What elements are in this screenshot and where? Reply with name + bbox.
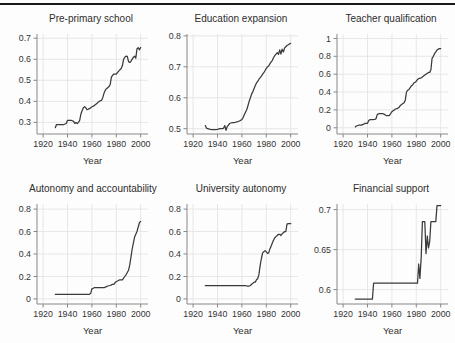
svg-text:0.5: 0.5 <box>19 75 31 85</box>
chart-title-teacher-qualification: Teacher qualification <box>303 8 453 28</box>
svg-text:0.3: 0.3 <box>19 117 31 127</box>
panel-university-autonomy: University autonomy 19201940196019802000… <box>153 178 303 338</box>
chart-title-financial-support: Financial support <box>303 178 453 198</box>
financial-support-line-chart: 192019401960198020000.60.650.7Year <box>303 198 453 338</box>
chart-title-pre-primary-school: Pre-primary school <box>3 8 153 28</box>
chart-title-education-expansion: Education expansion <box>153 8 303 28</box>
svg-text:1940: 1940 <box>358 139 378 149</box>
svg-text:1980: 1980 <box>107 309 127 319</box>
chart-title-autonomy-and-accountability: Autonomy and accountability <box>3 178 153 198</box>
svg-text:0.5: 0.5 <box>169 124 181 134</box>
svg-text:0.6: 0.6 <box>319 285 331 295</box>
svg-text:0.8: 0.8 <box>19 204 31 214</box>
svg-text:Year: Year <box>233 325 252 336</box>
svg-text:2000: 2000 <box>281 139 301 149</box>
svg-text:1960: 1960 <box>382 309 402 319</box>
svg-text:0.2: 0.2 <box>19 272 31 282</box>
svg-text:Year: Year <box>383 325 402 336</box>
svg-text:0.65: 0.65 <box>314 245 331 255</box>
education-expansion-line-chart: 192019401960198020000.50.60.70.8Year <box>153 28 303 168</box>
svg-text:0.8: 0.8 <box>319 51 331 61</box>
svg-text:1940: 1940 <box>58 139 78 149</box>
svg-text:1960: 1960 <box>382 139 402 149</box>
svg-text:0.6: 0.6 <box>319 69 331 79</box>
charts-grid: Pre-primary school 192019401960198020000… <box>3 8 453 338</box>
university-autonomy-line-chart: 1920194019601980200000.20.40.60.8Year <box>153 198 303 338</box>
svg-text:1960: 1960 <box>82 309 102 319</box>
svg-text:1: 1 <box>326 34 331 44</box>
chart-title-university-autonomy: University autonomy <box>153 178 303 198</box>
svg-text:1920: 1920 <box>33 139 53 149</box>
svg-text:2000: 2000 <box>431 139 451 149</box>
svg-text:0.7: 0.7 <box>19 33 31 43</box>
svg-text:1980: 1980 <box>257 309 277 319</box>
svg-text:0.8: 0.8 <box>169 31 181 41</box>
svg-text:0: 0 <box>176 294 181 304</box>
panel-pre-primary-school: Pre-primary school 192019401960198020000… <box>3 8 153 168</box>
svg-text:0.2: 0.2 <box>319 105 331 115</box>
svg-text:1920: 1920 <box>183 139 203 149</box>
svg-text:0.6: 0.6 <box>169 227 181 237</box>
svg-text:1920: 1920 <box>333 139 353 149</box>
panel-teacher-qualification: Teacher qualification 192019401960198020… <box>303 8 453 168</box>
svg-text:Year: Year <box>383 155 402 166</box>
figure-page: Pre-primary school 192019401960198020000… <box>0 0 455 343</box>
svg-text:2000: 2000 <box>431 309 451 319</box>
svg-text:Year: Year <box>83 325 102 336</box>
svg-text:0: 0 <box>326 123 331 133</box>
svg-text:1940: 1940 <box>58 309 78 319</box>
svg-text:0: 0 <box>26 294 31 304</box>
svg-text:1980: 1980 <box>257 139 277 149</box>
svg-text:1980: 1980 <box>407 139 427 149</box>
svg-text:2000: 2000 <box>131 139 151 149</box>
svg-text:0.4: 0.4 <box>19 96 31 106</box>
top-horizontal-rule <box>0 3 455 5</box>
autonomy-and-accountability-line-chart: 1920194019601980200000.20.40.60.8Year <box>3 198 153 338</box>
svg-text:2000: 2000 <box>131 309 151 319</box>
svg-text:0.4: 0.4 <box>169 249 181 259</box>
svg-text:1940: 1940 <box>358 309 378 319</box>
svg-text:1920: 1920 <box>183 309 203 319</box>
svg-text:0.4: 0.4 <box>319 87 331 97</box>
svg-text:Year: Year <box>233 155 252 166</box>
svg-text:0.7: 0.7 <box>169 62 181 72</box>
panel-autonomy-and-accountability: Autonomy and accountability 192019401960… <box>3 178 153 338</box>
svg-text:1940: 1940 <box>208 139 228 149</box>
svg-text:0.7: 0.7 <box>319 205 331 215</box>
svg-text:1980: 1980 <box>407 309 427 319</box>
svg-text:0.6: 0.6 <box>169 93 181 103</box>
svg-text:1980: 1980 <box>107 139 127 149</box>
svg-text:1960: 1960 <box>232 139 252 149</box>
svg-text:1920: 1920 <box>33 309 53 319</box>
svg-text:1940: 1940 <box>208 309 228 319</box>
svg-text:0.6: 0.6 <box>19 227 31 237</box>
svg-text:0.4: 0.4 <box>19 249 31 259</box>
svg-text:0.6: 0.6 <box>19 54 31 64</box>
svg-text:Year: Year <box>83 155 102 166</box>
svg-text:0.8: 0.8 <box>169 204 181 214</box>
svg-text:2000: 2000 <box>281 309 301 319</box>
pre-primary-school-line-chart: 192019401960198020000.30.40.50.60.7Year <box>3 28 153 168</box>
svg-text:1960: 1960 <box>232 309 252 319</box>
svg-text:0.2: 0.2 <box>169 272 181 282</box>
teacher-qualification-line-chart: 1920194019601980200000.20.40.60.81Year <box>303 28 453 168</box>
panel-financial-support: Financial support 192019401960198020000.… <box>303 178 453 338</box>
panel-education-expansion: Education expansion 19201940196019802000… <box>153 8 303 168</box>
svg-text:1960: 1960 <box>82 139 102 149</box>
svg-text:1920: 1920 <box>333 309 353 319</box>
